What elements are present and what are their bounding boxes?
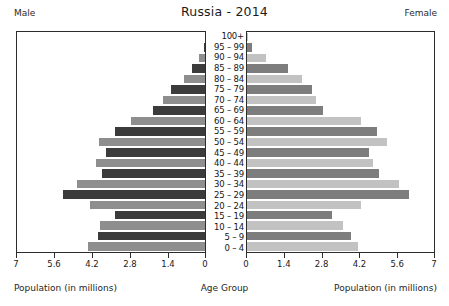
table-row xyxy=(247,137,434,147)
male-bar xyxy=(131,117,205,125)
table-row xyxy=(17,241,205,251)
female-bar xyxy=(247,43,252,51)
axis-tick xyxy=(284,253,285,258)
axis-tick xyxy=(54,253,55,258)
female-bar xyxy=(247,242,358,250)
table-row xyxy=(17,189,205,199)
age-group-label: 65 – 69 xyxy=(206,105,246,116)
female-bar xyxy=(247,211,332,219)
female-side-label: Female xyxy=(404,8,437,18)
age-group-axis: 100+95 – 9990 – 9485 – 8980 – 8475 – 797… xyxy=(206,31,246,253)
female-bar xyxy=(247,106,323,114)
male-bar xyxy=(77,180,205,188)
axis-tick xyxy=(434,253,435,258)
female-bar xyxy=(247,33,248,41)
axis-tick-label: 0 xyxy=(243,259,248,269)
table-row xyxy=(247,116,434,126)
male-bar xyxy=(199,54,205,62)
table-row xyxy=(17,158,205,168)
table-row xyxy=(17,84,205,94)
male-bar xyxy=(98,232,205,240)
age-group-label: 70 – 74 xyxy=(206,94,246,105)
female-bar xyxy=(247,138,387,146)
table-row xyxy=(17,220,205,230)
population-pyramid-chart: Male Russia - 2014 Female 100+95 – 9990 … xyxy=(0,0,449,306)
male-bar xyxy=(88,242,205,250)
male-bar xyxy=(96,159,205,167)
table-row xyxy=(17,95,205,105)
female-bar xyxy=(247,148,369,156)
male-bar xyxy=(63,190,205,198)
table-row xyxy=(17,63,205,73)
table-row xyxy=(17,231,205,241)
age-group-label: 85 – 89 xyxy=(206,63,246,74)
axis-tick xyxy=(168,253,169,258)
table-row xyxy=(17,74,205,84)
male-bar xyxy=(115,211,205,219)
table-row xyxy=(17,210,205,220)
age-group-label: 45 – 49 xyxy=(206,147,246,158)
female-bar xyxy=(247,64,288,72)
female-bar xyxy=(247,190,409,198)
age-group-label: 20 – 24 xyxy=(206,200,246,211)
male-x-tick-labels: 75.64.22.81.40 xyxy=(16,259,206,273)
table-row xyxy=(247,241,434,251)
female-bar xyxy=(247,117,361,125)
age-group-label: 95 – 99 xyxy=(206,42,246,53)
age-group-label: 35 – 39 xyxy=(206,169,246,180)
axis-tick xyxy=(92,253,93,258)
age-group-label: 25 – 29 xyxy=(206,190,246,201)
age-group-label: 30 – 34 xyxy=(206,179,246,190)
female-bar xyxy=(247,159,373,167)
female-bar xyxy=(247,169,379,177)
age-group-label: 10 – 14 xyxy=(206,221,246,232)
male-bar xyxy=(192,64,205,72)
axis-tick xyxy=(205,253,206,258)
male-bar xyxy=(171,85,205,93)
table-row xyxy=(247,158,434,168)
axis-tick-label: 7 xyxy=(13,259,18,269)
axis-tick-label: 1.4 xyxy=(161,259,175,269)
age-group-label: 40 – 44 xyxy=(206,158,246,169)
axis-tick-label: 4.2 xyxy=(85,259,99,269)
table-row xyxy=(247,200,434,210)
table-row xyxy=(17,126,205,136)
male-bar-rows xyxy=(17,32,205,252)
female-plot-area xyxy=(246,31,435,253)
age-group-label: 80 – 84 xyxy=(206,73,246,84)
female-bar xyxy=(247,201,361,209)
age-group-label: 100+ xyxy=(206,31,246,42)
age-group-label: 55 – 59 xyxy=(206,126,246,137)
female-bar xyxy=(247,85,312,93)
axis-tick-label: 2.8 xyxy=(123,259,137,269)
male-bar xyxy=(99,138,205,146)
table-row xyxy=(247,220,434,230)
male-bar xyxy=(102,169,205,177)
table-row xyxy=(247,210,434,220)
page-title: Russia - 2014 xyxy=(0,4,449,19)
axis-tick xyxy=(130,253,131,258)
male-plot-area xyxy=(16,31,206,253)
table-row xyxy=(247,126,434,136)
age-group-label: 60 – 64 xyxy=(206,116,246,127)
female-bar xyxy=(247,54,266,62)
table-row xyxy=(17,105,205,115)
age-group-label: 50 – 54 xyxy=(206,137,246,148)
table-row xyxy=(17,42,205,52)
age-group-label: 90 – 94 xyxy=(206,52,246,63)
table-row xyxy=(17,53,205,63)
female-bar xyxy=(247,96,316,104)
female-bar xyxy=(247,232,351,240)
table-row xyxy=(247,95,434,105)
age-group-label: 0 – 4 xyxy=(206,243,246,254)
axis-tick-label: 1.4 xyxy=(277,259,291,269)
axis-tick-label: 5.6 xyxy=(47,259,61,269)
axis-tick xyxy=(397,253,398,258)
axis-tick-label: 4.2 xyxy=(353,259,367,269)
age-group-label: 15 – 19 xyxy=(206,211,246,222)
male-bar xyxy=(106,148,205,156)
female-x-tick-labels: 01.42.84.25.67 xyxy=(246,259,435,273)
male-bar xyxy=(204,43,205,51)
table-row xyxy=(17,179,205,189)
female-bar xyxy=(247,127,377,135)
